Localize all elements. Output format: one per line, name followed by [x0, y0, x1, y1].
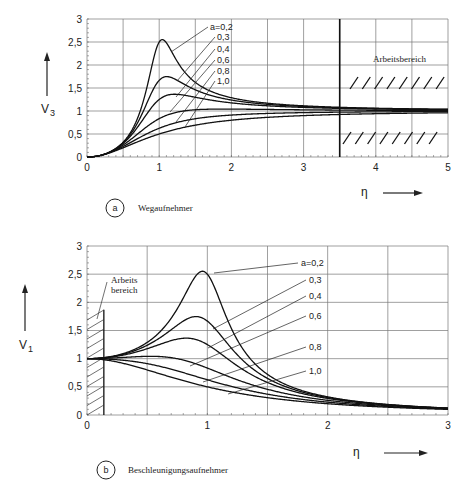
y-tick-label: 0	[76, 152, 82, 163]
y-tick-label: 1,5	[68, 325, 82, 336]
svg-text:1: 1	[28, 344, 33, 354]
svg-text:η: η	[353, 445, 360, 459]
legend-label: 0,3	[309, 275, 322, 285]
legend-label: 0,6	[309, 311, 322, 321]
legend-label: a=0,2	[210, 22, 233, 32]
legend-label: 0,6	[217, 55, 230, 65]
x-tick-label: 3	[301, 162, 307, 173]
work-range-hatch-b	[87, 282, 107, 415]
x-tick-label: 2	[325, 420, 331, 431]
x-tick-label: 1	[205, 420, 211, 431]
arrowhead-icon	[22, 284, 28, 293]
svg-text:V: V	[41, 102, 49, 116]
caption-a: Wegaufnehmer	[138, 203, 193, 213]
svg-text:η: η	[361, 185, 368, 199]
y-axis-label-b: V 1	[19, 284, 33, 354]
arrowhead-icon	[44, 52, 50, 61]
x-axis-label-b: η	[353, 445, 428, 459]
work-range-label-b-2: bereich	[111, 285, 138, 295]
y-tick-label: 0	[76, 410, 82, 421]
chart-panel-a: 00,511,522,53012345 a=0,20,30,40,60,81,0…	[41, 14, 451, 218]
y-tick-label: 2,5	[68, 269, 82, 280]
y-axis-label-a: V 3	[41, 52, 55, 118]
svg-text:3: 3	[50, 108, 55, 118]
x-tick-label: 5	[445, 162, 451, 173]
x-tick-label: 1	[156, 162, 162, 173]
svg-text:b: b	[103, 465, 108, 475]
svg-text:V: V	[19, 338, 27, 352]
legend-label: 1,0	[309, 366, 322, 376]
y-tick-label: 1	[76, 106, 82, 117]
figure: 00,511,522,53012345 a=0,20,30,40,60,81,0…	[0, 0, 470, 496]
axis-ticks-a: 00,511,522,53012345	[68, 14, 451, 174]
x-tick-label: 2	[229, 162, 235, 173]
x-axis-label-a: η	[361, 185, 423, 199]
y-tick-label: 1,5	[68, 83, 82, 94]
x-tick-label: 0	[84, 420, 90, 431]
legend-label: 0,8	[217, 66, 230, 76]
legend-label: 0,8	[309, 342, 322, 352]
caption-b: Beschleunigungsaufnehmer	[128, 465, 228, 475]
panel-badge-a: a	[106, 199, 124, 217]
y-tick-label: 0,5	[68, 129, 82, 140]
y-tick-label: 2	[76, 60, 82, 71]
arrowhead-icon	[419, 450, 428, 456]
work-range-label-b-1: Arbeits	[111, 275, 138, 285]
y-tick-label: 0,5	[68, 381, 82, 392]
y-tick-label: 2,5	[68, 37, 82, 48]
y-tick-label: 2	[76, 297, 82, 308]
y-tick-label: 3	[76, 241, 82, 252]
y-tick-label: 1	[76, 353, 82, 364]
x-tick-label: 3	[445, 420, 451, 431]
svg-text:a: a	[112, 203, 117, 213]
panel-badge-b: b	[97, 461, 115, 479]
legend-label: 1,0	[217, 76, 230, 86]
legend-label: a=0,2	[301, 258, 324, 268]
x-tick-label: 4	[373, 162, 379, 173]
legend-label: 0,4	[309, 291, 322, 301]
chart-panel-b: 00,511,522,530123 a=0,20,30,40,60,81,0 A…	[19, 241, 451, 480]
x-tick-label: 0	[84, 162, 90, 173]
legend-label: 0,3	[217, 32, 230, 42]
legend-a: a=0,20,30,40,60,81,0	[210, 22, 233, 86]
y-tick-label: 3	[76, 14, 82, 25]
legend-label: 0,4	[217, 44, 230, 54]
work-range-label-a: Arbeitsbereich	[373, 54, 426, 64]
arrowhead-icon	[414, 190, 423, 196]
